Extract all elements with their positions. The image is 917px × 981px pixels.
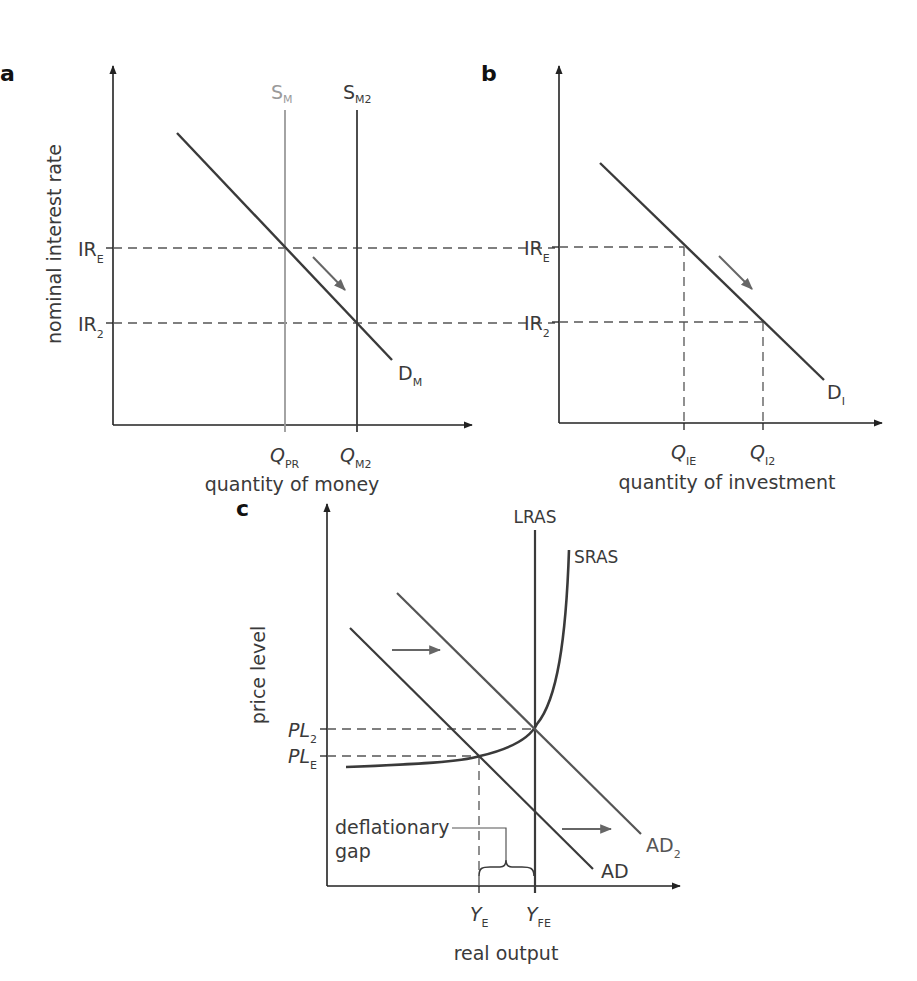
panel-b-investment-market: b IRE IR2 DI QIE QI2 quantity of investm… <box>481 61 882 493</box>
monetary-policy-diagram: a nominal interest rate quantity of mone… <box>0 0 917 981</box>
label-q-pr: QPR <box>270 444 300 471</box>
label-ad: AD <box>601 860 629 882</box>
movement-arrow-icon <box>313 257 345 290</box>
panel-c-x-axis-label: real output <box>454 942 559 964</box>
label-di: DI <box>827 381 845 408</box>
label-pl-e: PLE <box>288 745 317 772</box>
label-sras: SRAS <box>574 547 618 567</box>
label-sm: SM <box>271 81 293 106</box>
panel-b-x-axis-label: quantity of investment <box>619 471 836 493</box>
gap-brace-icon <box>479 860 534 876</box>
label-dm: DM <box>398 362 422 389</box>
label-b-ir-2: IR2 <box>524 312 550 340</box>
panel-c-y-axis-label: price level <box>247 626 269 725</box>
label-b-ir-e: IRE <box>524 237 550 265</box>
label-ad2: AD2 <box>646 834 681 861</box>
label-q-m2: QM2 <box>340 444 371 471</box>
panel-a-letter: a <box>0 61 15 86</box>
label-q-ie: QIE <box>671 441 696 468</box>
label-lras: LRAS <box>513 507 556 527</box>
deflationary-gap-label-line2: gap <box>335 840 371 862</box>
label-y-e: YE <box>470 903 489 930</box>
label-q-i2: QI2 <box>750 441 775 468</box>
label-y-fe: YFE <box>526 903 551 930</box>
investment-demand-line <box>600 163 824 380</box>
ad2-line <box>397 593 641 834</box>
label-pl-2: PL2 <box>288 719 317 746</box>
panel-c-ad-as: c price level real output PL2 PLE LRAS S… <box>236 496 681 964</box>
panel-a-money-market: a nominal interest rate quantity of mone… <box>0 61 555 495</box>
label-sm2: SM2 <box>343 81 372 106</box>
label-ir-2: IR2 <box>78 313 104 341</box>
panel-a-x-axis-label: quantity of money <box>205 473 380 495</box>
panel-b-letter: b <box>481 61 497 86</box>
deflationary-gap-label-line1: deflationary <box>335 816 449 838</box>
panel-a-y-axis-label: nominal interest rate <box>43 144 65 344</box>
label-ir-e: IRE <box>78 238 104 266</box>
panel-c-letter: c <box>236 496 249 521</box>
